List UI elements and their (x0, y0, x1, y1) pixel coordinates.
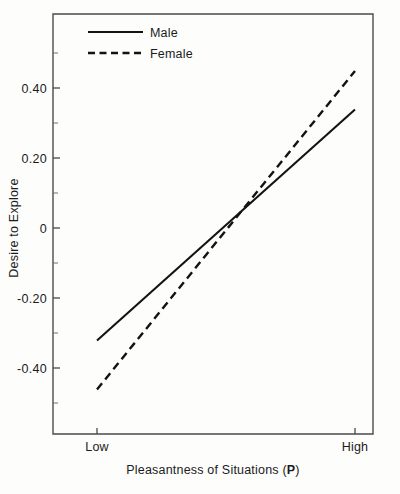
x-axis-title-plain: Pleasantness of Situations ( (126, 463, 287, 477)
y-tick-label-neg0.40: -0.40 (17, 362, 47, 376)
legend-label-male: Male (150, 26, 178, 40)
y-tick-label-0: 0 (40, 222, 47, 236)
x-tick-label-low: Low (85, 440, 109, 454)
y-tick-label-0.20: 0.20 (21, 152, 47, 166)
figure-page: 0.40 0.20 0 -0.20 -0.40 Low High Pleasan… (0, 0, 400, 494)
y-tick-label-neg0.20: -0.20 (17, 292, 47, 306)
x-axis-title-tail: ) (295, 463, 299, 477)
x-tick-label-high: High (342, 440, 369, 454)
x-axis-title: Pleasantness of Situations (P) (126, 463, 299, 477)
x-axis-title-bold-p: P (287, 463, 296, 477)
y-tick-label-0.40: 0.40 (21, 82, 47, 96)
legend-label-female: Female (150, 47, 193, 61)
line-chart: 0.40 0.20 0 -0.20 -0.40 Low High Pleasan… (0, 0, 400, 494)
y-axis-title: Desire to Explore (7, 178, 21, 277)
